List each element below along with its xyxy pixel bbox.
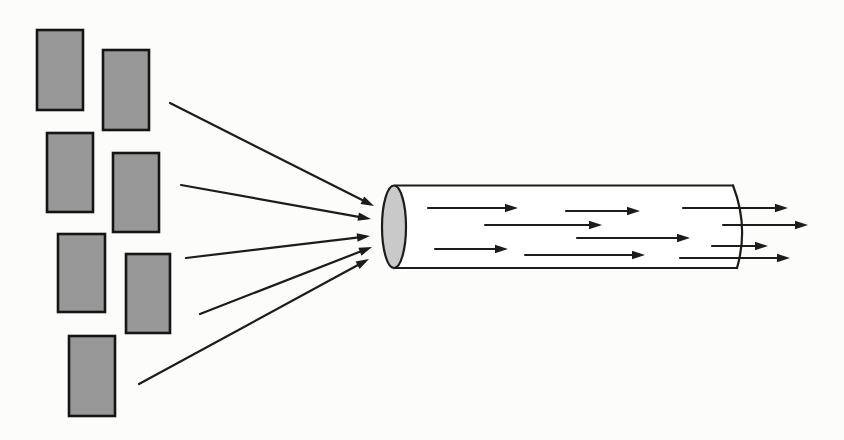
source-rectangle-1	[37, 30, 83, 110]
diagram-canvas	[0, 0, 844, 440]
converging-arrow-3-head-icon	[357, 233, 370, 241]
figure	[0, 0, 844, 440]
converging-arrow-1	[170, 103, 374, 206]
converging-arrow-4-head-icon	[358, 247, 372, 256]
converging-arrow-2-head-icon	[357, 213, 371, 221]
flow-arrow-7-head-icon	[755, 242, 768, 250]
flow-arrow-5-head-icon	[795, 221, 808, 229]
source-rectangle-6	[126, 254, 170, 333]
converging-arrow-2-shaft	[181, 185, 360, 217]
converging-arrow-5-shaft	[139, 264, 359, 384]
converging-arrow-3	[186, 233, 370, 258]
source-rectangle-2	[103, 50, 149, 130]
flow-arrow-10-head-icon	[777, 254, 790, 262]
converging-arrow-5	[139, 259, 369, 384]
converging-arrow-3-shaft	[186, 237, 359, 258]
source-rectangle-3	[47, 133, 93, 212]
source-rectangle-5	[58, 234, 105, 312]
converging-arrow-1-head-icon	[361, 196, 374, 206]
flow-arrow-3-head-icon	[775, 204, 788, 212]
converging-arrow-5-head-icon	[356, 259, 369, 269]
converging-arrow-4-shaft	[200, 251, 362, 314]
source-rectangle-7	[69, 336, 115, 416]
tube-inlet-ellipse	[382, 186, 406, 269]
converging-arrow-1-shaft	[170, 103, 364, 201]
source-rectangle-4	[113, 153, 159, 232]
